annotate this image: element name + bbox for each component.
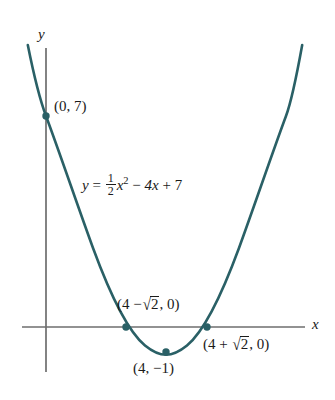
paren-close: )	[169, 360, 174, 376]
coord-comma: ,	[249, 336, 253, 352]
coord-comma: ,	[146, 360, 150, 376]
point-label-root-left: (4 −√2, 0)	[117, 296, 179, 312]
equation-label: y = 12x2 − 4x + 7	[82, 172, 182, 197]
fraction-denominator: 2	[106, 184, 116, 197]
radicand: 2	[150, 296, 160, 312]
fraction-numerator: 1	[106, 172, 116, 184]
root-x-lead: 4	[122, 296, 130, 312]
graph-canvas	[0, 0, 335, 400]
equation-equals: =	[92, 177, 100, 193]
root-sign: +	[219, 336, 227, 352]
paren-close: )	[174, 296, 179, 312]
square-root: √2	[142, 296, 160, 312]
point-label-root-right: (4 + √2, 0)	[203, 336, 269, 352]
point-root-left	[122, 323, 129, 330]
equation-constant: 7	[175, 177, 183, 193]
coord-comma: ,	[67, 98, 71, 114]
equation-coefficient-fraction: 12	[106, 172, 116, 197]
equation-exponent: 2	[123, 175, 128, 186]
point-label-y-intercept: (0, 7)	[54, 99, 87, 114]
parabola-figure: y x (0, 7) y = 12x2 − 4x + 7 (4 −√2, 0) …	[0, 0, 335, 400]
radical-icon: √	[143, 296, 151, 313]
equation-minus-sign: −	[132, 177, 140, 193]
equation-plus-sign: +	[162, 177, 170, 193]
point-y-intercept	[42, 112, 49, 119]
root-sign: −	[133, 296, 141, 312]
coord-y-value: 7	[74, 98, 82, 114]
point-root-right	[203, 323, 210, 330]
radical-icon: √	[232, 336, 240, 353]
paren-close: )	[82, 98, 87, 114]
point-label-vertex: (4, −1)	[133, 361, 174, 376]
coord-x-value: 0	[59, 98, 67, 114]
y-axis-label: y	[38, 27, 45, 42]
paren-close: )	[264, 336, 269, 352]
coord-comma: ,	[159, 296, 163, 312]
equation-lhs: y	[82, 177, 89, 193]
coord-y-value: 1	[161, 360, 169, 376]
point-vertex	[162, 348, 169, 355]
radicand: 2	[240, 336, 250, 352]
equation-linear-term: 4x	[145, 177, 159, 193]
coord-x-value: 4	[138, 360, 146, 376]
root-x-lead: 4	[208, 336, 216, 352]
x-axis-label: x	[312, 317, 319, 332]
square-root: √2	[231, 336, 249, 352]
